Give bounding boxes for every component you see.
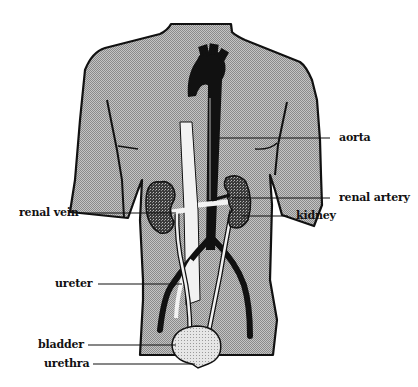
bladder-organ	[172, 326, 221, 368]
label-kidney: kidney	[296, 210, 336, 222]
label-bladder: bladder	[38, 339, 84, 351]
right-renal-vein	[198, 202, 228, 205]
left-renal-vein	[172, 210, 186, 212]
right-kidney	[224, 176, 250, 228]
urinary-system-diagram: aorta renal artery kidney renal vein ure…	[0, 0, 418, 387]
label-renal-artery: renal artery	[339, 192, 410, 204]
label-ureter: ureter	[55, 278, 92, 290]
label-urethra: urethra	[44, 358, 89, 370]
label-renal-vein: renal vein	[19, 207, 79, 219]
label-aorta: aorta	[339, 132, 370, 144]
